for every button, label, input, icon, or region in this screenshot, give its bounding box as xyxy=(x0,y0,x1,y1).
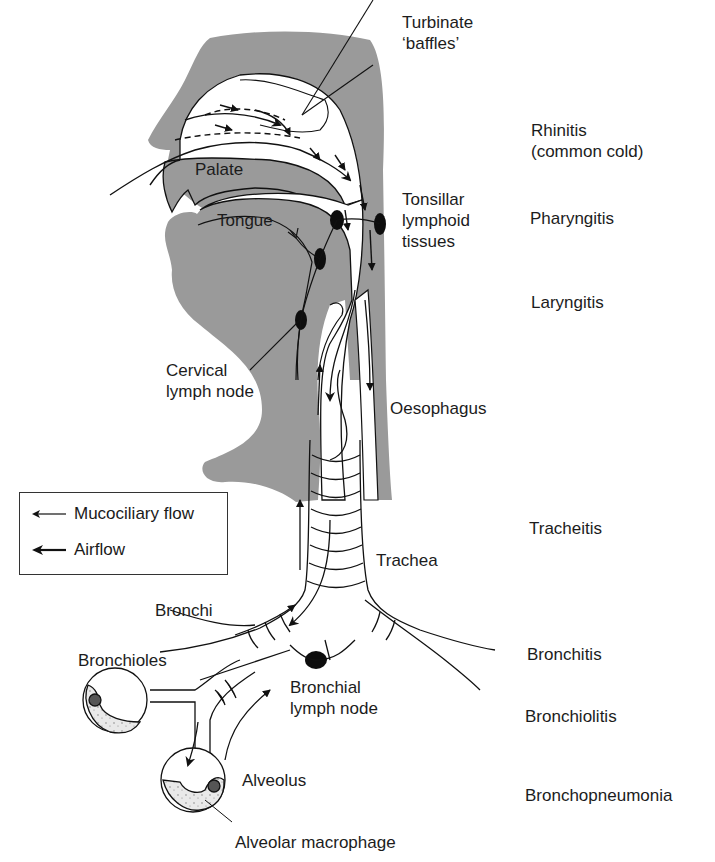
condition-rhinitis: Rhinitis (common cold) xyxy=(531,120,643,162)
label-oesophagus: Oesophagus xyxy=(390,398,486,419)
condition-laryngitis: Laryngitis xyxy=(531,292,604,313)
legend: Mucociliary flow Airflow xyxy=(19,492,228,575)
legend-label-airflow: Airflow xyxy=(74,540,125,560)
label-bronchioles: Bronchioles xyxy=(78,650,167,671)
condition-bronchitis: Bronchitis xyxy=(527,644,602,665)
thin-arrow-left-icon xyxy=(32,509,66,519)
label-alveolar-macrophage: Alveolar macrophage xyxy=(235,832,396,853)
label-cervical: Cervical lymph node xyxy=(166,360,254,402)
legend-item-mucociliary: Mucociliary flow xyxy=(32,504,194,524)
condition-pharyngitis: Pharyngitis xyxy=(530,208,614,229)
legend-item-airflow: Airflow xyxy=(32,540,125,560)
bronchioles-alveoli xyxy=(83,660,255,822)
label-trachea: Trachea xyxy=(376,550,438,571)
label-tonsillar: Tonsillar lymphoid tissues xyxy=(402,189,470,252)
label-alveolus: Alveolus xyxy=(242,770,306,791)
condition-bronchiolitis: Bronchiolitis xyxy=(525,706,617,727)
label-turbinate: Turbinate ‘baffles’ xyxy=(402,12,473,54)
bold-arrow-left-icon xyxy=(32,544,66,556)
label-tongue: Tongue xyxy=(217,210,273,231)
label-palate: Palate xyxy=(195,159,243,180)
head-tissue xyxy=(148,31,392,502)
label-bronchial-node: Bronchial lymph node xyxy=(290,677,378,719)
condition-tracheitis: Tracheitis xyxy=(529,518,602,539)
condition-bronchopneumonia: Bronchopneumonia xyxy=(525,785,672,806)
label-bronchi: Bronchi xyxy=(155,600,213,621)
legend-label-mucociliary: Mucociliary flow xyxy=(74,504,194,524)
